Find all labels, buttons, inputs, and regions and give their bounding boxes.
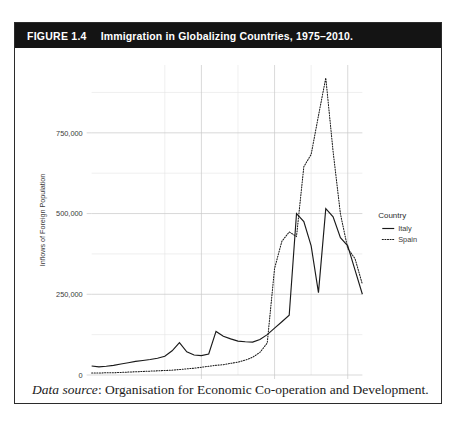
figure-card: FIGURE 1.4 Immigration in Globalizing Co… — [14, 22, 442, 404]
chart-legend: CountryItalySpain — [378, 211, 417, 244]
plot-panel: 0250,000500,000750,000 199020002010 Infl… — [15, 48, 441, 379]
y-tick-label: 500,000 — [56, 209, 83, 218]
source-label: Data source — [32, 382, 98, 397]
figure-number: FIGURE 1.4 — [27, 30, 87, 42]
series-line-italy — [92, 209, 363, 367]
source-caption-row: Data source: Organisation for Economic C… — [15, 377, 441, 403]
y-axis-title: Inflows of Foreign Population — [39, 174, 47, 267]
gridlines-major — [92, 65, 363, 375]
legend-title: Country — [378, 211, 406, 220]
y-axis-tick-labels: 0250,000500,000750,000 — [56, 128, 92, 379]
gridlines-minor — [92, 65, 363, 375]
line-chart: 0250,000500,000750,000 199020002010 Infl… — [15, 48, 441, 379]
series-lines — [92, 78, 363, 373]
source-body: : Organisation for Economic Co-operation… — [98, 382, 429, 397]
legend-label-italy: Italy — [398, 224, 412, 233]
series-line-spain — [92, 78, 363, 373]
source-caption: Data source: Organisation for Economic C… — [32, 382, 429, 398]
figure-title: Immigration in Globalizing Countries, 19… — [101, 30, 353, 42]
y-tick-label: 750,000 — [56, 128, 83, 137]
legend-label-spain: Spain — [398, 235, 417, 244]
figure-title-bar: FIGURE 1.4 Immigration in Globalizing Co… — [15, 23, 441, 48]
figure-title-row: FIGURE 1.4 Immigration in Globalizing Co… — [27, 23, 353, 48]
y-tick-label: 250,000 — [56, 290, 83, 299]
